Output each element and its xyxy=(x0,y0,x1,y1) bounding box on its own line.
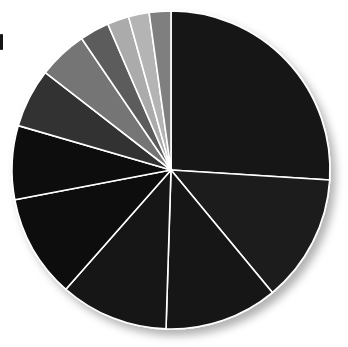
pie-slice[interactable] xyxy=(171,11,330,180)
pie-chart-figure xyxy=(0,0,348,347)
left-edge-mark xyxy=(0,34,3,50)
pie-slice-group xyxy=(12,11,330,329)
pie-chart-svg xyxy=(0,0,348,347)
